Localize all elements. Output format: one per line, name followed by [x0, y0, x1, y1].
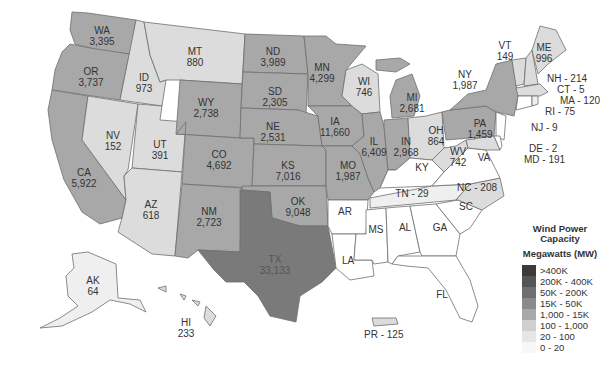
label-VT: VT149 [497, 40, 514, 62]
label-IN: IN2,968 [393, 136, 418, 158]
label-GA: GA [433, 222, 447, 233]
label-OK: OK9,048 [285, 196, 310, 218]
legend-swatch [522, 287, 536, 298]
label-MS: MS [369, 224, 384, 235]
label-CA: CA5,922 [71, 167, 96, 189]
label-AR: AR [338, 206, 352, 217]
label-OR: OR3,737 [78, 66, 103, 88]
state-FL[interactable] [392, 256, 478, 322]
label-WA: WA3,395 [89, 25, 114, 47]
legend-label: 50K - 200K [540, 287, 588, 298]
label-FL: FL [436, 289, 448, 300]
label-DE: DE - 2 [529, 143, 557, 154]
label-AL: AL [399, 222, 411, 233]
label-ID: ID973 [136, 72, 153, 94]
label-AK: AK64 [86, 275, 99, 297]
label-NM: NM2,723 [196, 206, 221, 228]
state-CT[interactable] [516, 96, 532, 110]
legend-row: 20 - 100 [522, 331, 606, 342]
legend-label: 1,000 - 15K [540, 309, 589, 320]
label-MD: MD - 191 [524, 154, 565, 165]
label-LA: LA [342, 255, 354, 266]
label-NH: NH - 214 [547, 73, 587, 84]
label-MA: MA - 120 [560, 95, 600, 106]
label-WI: WI746 [356, 76, 373, 98]
label-OH: OH864 [428, 125, 445, 147]
legend-label: >400K [540, 265, 568, 276]
state-MA[interactable] [516, 84, 548, 96]
legend-swatch [522, 320, 536, 331]
legend-swatch [522, 331, 536, 342]
label-WY: WY2,738 [193, 97, 218, 119]
label-KS: KS7,016 [275, 160, 300, 182]
label-NY: NY1,987 [452, 69, 477, 91]
label-TN: TN - 29 [395, 188, 428, 199]
label-PA: PA1,459 [467, 118, 492, 140]
label-NE: NE2,531 [260, 121, 285, 143]
label-TX: TX33,133 [260, 254, 291, 276]
label-CO: CO4,692 [206, 149, 231, 171]
label-AZ: AZ618 [143, 199, 160, 221]
label-NV: NV152 [105, 130, 122, 152]
label-MI: MI2,681 [399, 92, 424, 114]
label-PR: PR - 125 [364, 329, 403, 340]
label-RI: RI - 75 [545, 106, 575, 117]
label-NJ: NJ - 9 [531, 122, 558, 133]
legend-row: >400K [522, 265, 606, 276]
label-VA: VA [478, 152, 491, 163]
legend-row: 1,000 - 15K [522, 309, 606, 320]
legend-row: 0 - 20 [522, 342, 606, 353]
label-UT: UT391 [152, 139, 169, 161]
legend-label: 100 - 1,000 [540, 320, 588, 331]
label-HI: HI233 [178, 317, 195, 339]
legend-swatch [522, 298, 536, 309]
label-WV: WV742 [450, 146, 467, 168]
legend-label: 15K - 50K [540, 298, 582, 309]
legend-swatch [522, 276, 536, 287]
legend-row: 15K - 50K [522, 298, 606, 309]
legend: Wind Power Capacity Megawatts (MW) >400K… [514, 224, 606, 353]
legend-swatch [522, 265, 536, 276]
label-ME: ME996 [536, 42, 553, 64]
label-IA: IA11,660 [320, 116, 350, 138]
label-IL: IL6,409 [361, 136, 386, 158]
legend-swatch [522, 342, 536, 353]
label-NC: NC - 208 [457, 182, 497, 193]
legend-label: 200K - 400K [540, 276, 593, 287]
label-ND: ND3,989 [260, 46, 285, 68]
label-MO: MO1,987 [335, 160, 360, 182]
legend-label: 20 - 100 [540, 331, 575, 342]
label-CT: CT - 5 [557, 84, 585, 95]
legend-row: 100 - 1,000 [522, 320, 606, 331]
label-KY: KY [415, 162, 428, 173]
legend-swatch [522, 309, 536, 320]
label-MT: MT880 [187, 46, 204, 68]
legend-title: Wind Power Capacity [514, 224, 606, 244]
legend-label: 0 - 20 [540, 342, 564, 353]
state-PR[interactable] [372, 318, 398, 326]
legend-row: 200K - 400K [522, 276, 606, 287]
label-SC: SC [459, 201, 473, 212]
legend-units: Megawatts (MW) [514, 248, 606, 259]
label-MN: MN4,299 [309, 62, 334, 84]
label-SD: SD2,305 [262, 86, 287, 108]
legend-row: 50K - 200K [522, 287, 606, 298]
state-RI[interactable] [532, 96, 538, 106]
